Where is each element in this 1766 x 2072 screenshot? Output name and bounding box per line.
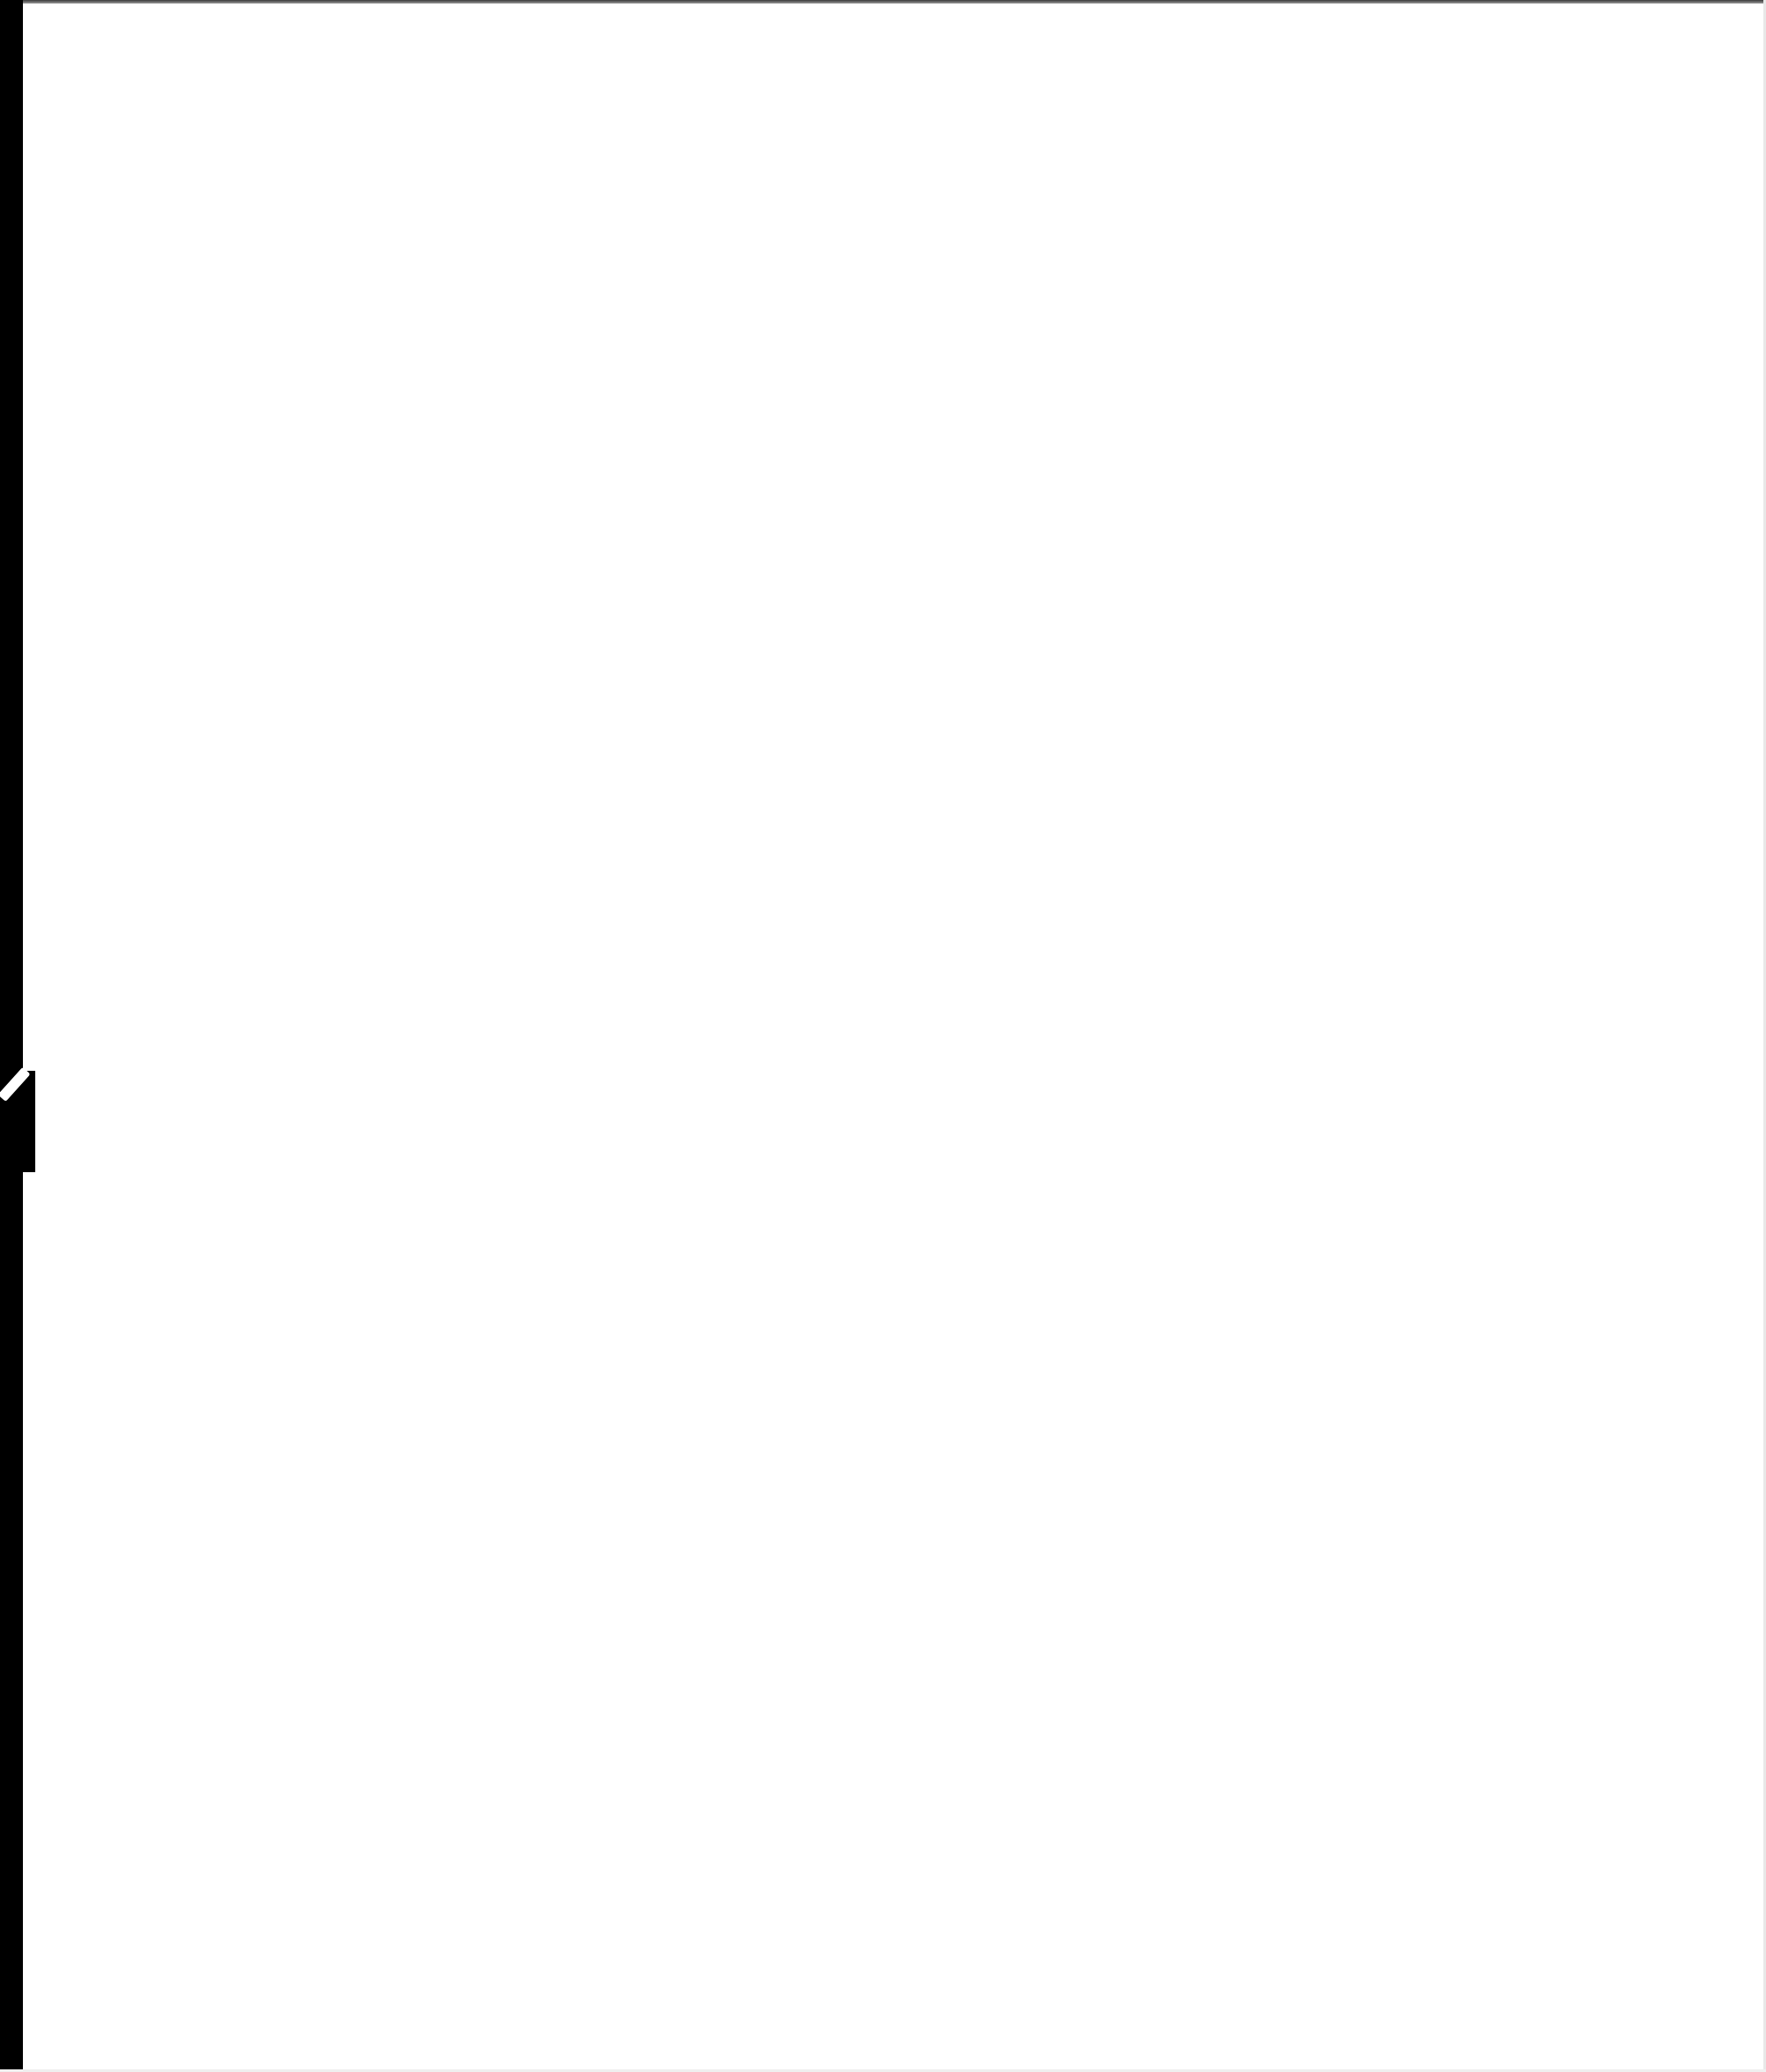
scan-left-border <box>0 0 23 2072</box>
blank-page-area <box>23 4 1763 2069</box>
